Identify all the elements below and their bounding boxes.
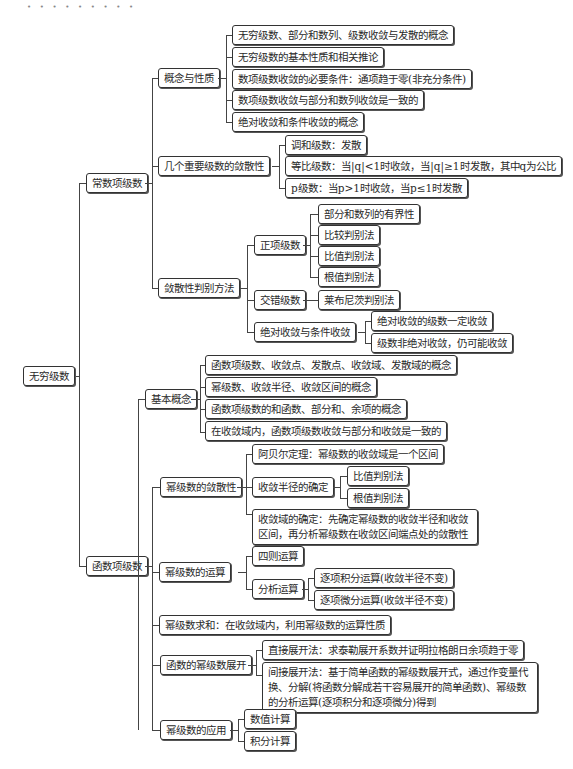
absolute-conditional-node: 绝对收敛与条件收敛 [254,322,356,342]
connector [79,183,80,567]
radius-test-item: 根值判别法 [347,488,409,508]
concept-item: 无穷级数、部分和数列、级数收敛与发散的概念 [232,25,454,45]
arithmetic-operations-item: 四则运算 [252,546,304,566]
connector [256,650,257,675]
connector [152,730,160,731]
decorative-dots: • • • • • • • • • [27,3,136,11]
term-differentiation-item: 逐项微分运算(收敛半径不变) [314,590,454,610]
positive-test-item: 比值判别法 [318,246,380,266]
constant-series-node: 常数项级数 [86,173,148,193]
connector [279,145,280,188]
power-series-convergence-node: 幂级数的敛散性 [160,477,242,497]
connector [358,332,365,333]
connector [138,399,145,400]
positive-test-item: 部分和数列的有界性 [318,204,420,224]
connector [308,578,309,600]
concept-item: 绝对收敛和条件收敛的概念 [232,112,364,132]
abel-theorem-item: 阿贝尔定理：幂级数的收敛域是一个区间 [252,444,444,464]
absolute-item: 绝对收敛的级数一定收敛 [371,311,493,331]
term-integration-item: 逐项积分运算(收敛半径不变) [314,568,454,588]
connector [340,498,347,499]
connector [145,183,152,184]
radius-determination-node: 收敛半径的确定 [252,477,334,497]
alternating-series-node: 交错级数 [254,290,306,310]
connector [340,476,347,477]
radius-test-item: 比值判别法 [347,466,409,486]
connector [237,487,246,488]
convergence-tests-node: 敛散性判别方法 [158,278,240,298]
basic-concept-item: 函数项级数的和函数、部分和、余项的概念 [205,399,407,419]
analytic-operations-node: 分析运算 [252,579,304,599]
connector [200,365,201,433]
geometric-series-item: 等比级数：当|q|<1时收敛，当|q|≥1时发散，其中q为公比 [285,156,562,176]
power-series-operations-node: 幂级数的运算 [159,562,231,582]
connector [310,256,318,257]
connector [238,572,246,573]
harmonic-series-item: 调和级数：发散 [285,135,367,155]
basic-concept-item: 幂级数、收敛半径、收敛区间的概念 [205,377,377,397]
connector [138,399,139,730]
connector [191,399,200,400]
numerical-calculation-item: 数值计算 [244,709,296,729]
connector [310,214,311,277]
connector [238,719,239,741]
basic-concept-item: 函数项级数、收敛点、发散点、收敛域、发散域的概念 [205,355,457,375]
connector [303,245,310,246]
integral-calculation-item: 积分计算 [244,731,296,751]
connector [310,214,318,215]
connector [152,665,160,666]
connector [152,487,153,730]
concept-item: 无穷级数的基本性质和相关推论 [232,47,384,67]
positive-test-item: 比较判别法 [318,225,380,245]
connector [226,35,227,122]
connector [240,288,247,289]
absolute-item: 级数非绝对收敛，仍可能收敛 [371,333,513,353]
connector [152,78,153,289]
positive-test-item: 根值判别法 [318,267,380,287]
connector [79,183,86,184]
important-series-node: 几个重要级数的敛散性 [158,156,270,176]
connector [248,665,256,666]
connector [333,487,340,488]
connector [246,556,247,589]
power-series-applications-node: 幂级数的应用 [160,720,232,740]
connector [247,245,248,332]
connector [246,454,247,514]
power-series-summation-item: 幂级数求和：在收敛域内，利用幂级数的运算性质 [159,615,391,635]
connector [303,300,318,301]
connector [79,566,86,567]
connector [247,332,254,333]
connector [310,235,318,236]
connector [218,78,226,79]
positive-series-node: 正项级数 [254,235,306,255]
connector [365,321,366,343]
basic-concepts-node: 基本概念 [145,389,197,409]
leibniz-test-item: 莱布尼茨判别法 [318,290,400,310]
domain-determination-item: 收敛域的确定：先确定幂级数的收敛半径和收敛区间，再分析幂级数在收敛区间端点处的敛… [252,509,478,545]
connector [247,300,254,301]
p-series-item: p级数：当p>1时收敛，当p≤1时发散 [285,178,468,198]
concept-item: 数项级数收敛的必要条件：通项趋于零(非充分条件) [232,69,472,89]
concept-item: 数项级数收敛与部分和数列收敛是一致的 [232,90,424,110]
connector [272,166,279,167]
connector [230,730,238,731]
direct-expansion-item: 直接展开法：求泰勒展开系数并证明拉格朗日余项趋于零 [262,640,524,660]
root-node: 无穷级数 [23,366,75,386]
power-series-expansion-node: 函数的幂级数展开 [160,655,252,675]
connector [152,487,160,488]
basic-concept-item: 在收敛域内，函数项级数收敛与部分和收敛是一致的 [205,421,447,441]
connector [145,566,152,567]
concept-properties-node: 概念与性质 [158,68,220,88]
indirect-expansion-item: 间接展开法：基于简单函数的幂级数展开式，通过作变量代换、分解(将函数分解成若干容… [262,662,538,713]
connector [247,245,254,246]
connector [310,277,318,278]
connector [340,476,341,498]
